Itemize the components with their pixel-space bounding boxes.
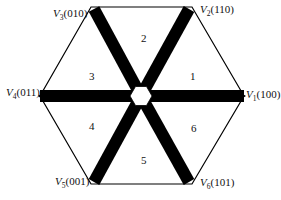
label-v5: V5(001)	[55, 175, 90, 190]
sector-5: 5	[141, 154, 147, 166]
label-v1: V1(100)	[246, 88, 281, 103]
sector-1: 1	[190, 70, 196, 82]
label-v3: V3(010)	[53, 7, 88, 22]
label-v2: V2(110)	[200, 3, 234, 18]
label-v4: V4(011)	[6, 86, 40, 101]
sector-4: 4	[89, 120, 95, 132]
hexagon-diagram: 1 2 3 4 5 6 V1(100) V2(110) V3(010) V4(0…	[0, 0, 281, 200]
sector-6: 6	[191, 122, 197, 134]
sector-3: 3	[89, 70, 95, 82]
sector-2: 2	[141, 32, 147, 44]
label-v6: V6(101)	[200, 176, 235, 191]
